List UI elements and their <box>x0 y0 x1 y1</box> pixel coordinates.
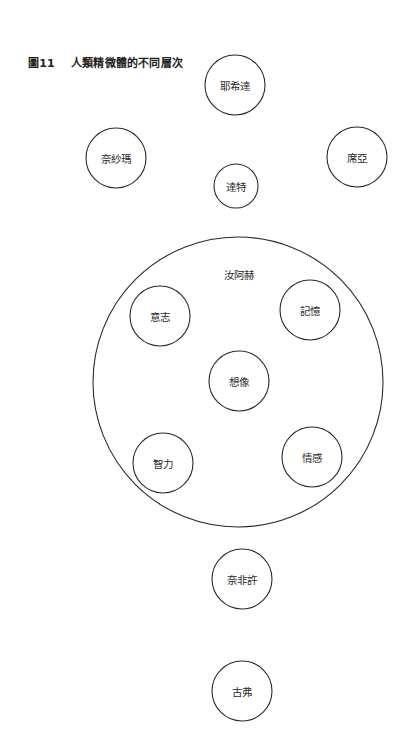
node-label-memory: 記憶 <box>300 303 320 318</box>
node-label-intellect: 智力 <box>153 456 173 471</box>
node-label-nefesh: 奈非許 <box>227 572 257 587</box>
node-label-neshama: 奈紗瑪 <box>101 151 131 166</box>
node-label-guf: 古弗 <box>232 684 252 699</box>
node-label-yehida: 耶希達 <box>220 78 250 93</box>
node-label-will: 意志 <box>150 309 170 324</box>
diagram-canvas <box>0 0 408 746</box>
node-label-emotion: 情感 <box>302 450 322 465</box>
outer-circle-label: 汝阿赫 <box>224 267 254 282</box>
node-label-imagination: 想像 <box>229 374 249 389</box>
node-label-daat: 達特 <box>226 179 246 194</box>
node-label-chaya: 席亞 <box>347 150 367 165</box>
